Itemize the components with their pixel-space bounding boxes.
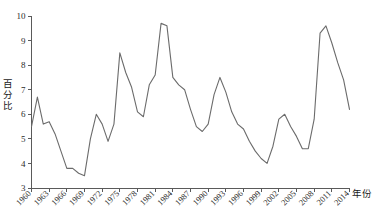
x-tick-label: 1960 — [14, 188, 33, 207]
y-tick-label: 10 — [17, 11, 27, 21]
x-tick-label: 1963 — [31, 188, 50, 207]
x-tick-label: 1990 — [190, 188, 209, 207]
y-tick-label: 9 — [21, 36, 26, 46]
x-tick-label: 1987 — [173, 188, 192, 207]
x-tick-label: 1981 — [137, 188, 156, 207]
x-tick-label: 1999 — [243, 188, 262, 207]
x-tick-label: 1972 — [84, 188, 103, 207]
y-tick-label: 7 — [21, 85, 26, 95]
y-tick-label: 8 — [21, 60, 26, 70]
x-axis-ticks: 1960196319661969197219751978198119841987… — [14, 188, 352, 208]
x-tick-label: 2005 — [279, 188, 298, 207]
data-series-line — [32, 23, 350, 175]
y-tick-label: 5 — [21, 134, 26, 144]
x-tick-label: 2014 — [332, 188, 352, 208]
x-tick-label: 1966 — [49, 188, 68, 207]
x-tick-label: 1984 — [155, 188, 175, 208]
x-tick-label: 1978 — [120, 188, 139, 207]
x-tick-label: 1993 — [208, 188, 227, 207]
y-tick-label: 4 — [21, 159, 26, 169]
x-tick-label: 2002 — [261, 188, 280, 207]
x-tick-label: 1996 — [226, 188, 245, 207]
line-chart-plot: 109876543 196019631966196919721975197819… — [0, 0, 379, 224]
x-tick-label: 2011 — [314, 188, 333, 207]
y-axis-ticks: 109876543 — [17, 11, 32, 193]
x-tick-label: 2008 — [296, 188, 315, 207]
chart-container: 百分比 年份 109876543 19601963196619691972197… — [0, 0, 379, 224]
x-tick-label: 1975 — [102, 188, 121, 207]
y-tick-label: 6 — [21, 109, 26, 119]
x-tick-label: 1969 — [67, 188, 86, 207]
